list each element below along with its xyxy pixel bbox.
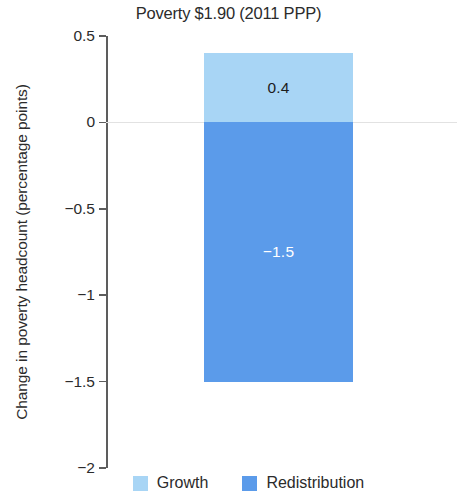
y-tick-mark [99, 208, 106, 210]
chart-figure: Poverty $1.90 (2011 PPP) Change in pover… [0, 0, 457, 504]
legend-label-redistribution: Redistribution [266, 474, 364, 492]
bar-value-growth: 0.4 [267, 79, 289, 97]
legend-item-redistribution: Redistribution [242, 474, 364, 492]
chart-legend: Growth Redistribution [0, 474, 457, 492]
y-tick-label: −1 [77, 286, 95, 304]
y-tick-mark [99, 381, 106, 383]
bar-segment-growth: 0.4 [204, 53, 353, 122]
y-axis-spine [106, 36, 108, 468]
y-tick-label: −1.5 [64, 373, 95, 391]
legend-swatch-redistribution [242, 476, 257, 491]
bar-value-redistribution: −1.5 [263, 243, 294, 261]
y-tick-mark [99, 467, 106, 469]
y-tick-label: −0.5 [64, 200, 95, 218]
y-tick-mark [99, 294, 106, 296]
bar-segment-redistribution: −1.5 [204, 122, 353, 381]
plot-area: 0.50−0.5−1−1.5−2 0.4 −1.5 [106, 36, 457, 468]
y-axis-title: Change in poverty headcount (percentage … [13, 17, 31, 487]
y-tick-label: 0.5 [73, 27, 95, 45]
y-tick-label: 0 [86, 113, 95, 131]
y-tick-mark [99, 122, 106, 124]
legend-item-growth: Growth [133, 474, 209, 492]
chart-title: Poverty $1.90 (2011 PPP) [0, 4, 457, 23]
legend-swatch-growth [133, 476, 148, 491]
legend-label-growth: Growth [157, 474, 209, 492]
y-tick-mark [99, 35, 106, 37]
